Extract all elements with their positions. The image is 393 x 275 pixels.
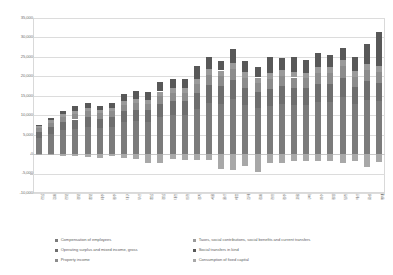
bar-stack: [349, 18, 361, 193]
bar-segment: [279, 76, 285, 87]
bar-segment: [327, 55, 333, 67]
bar-segment: [48, 123, 54, 127]
bar-segment-negative: [327, 154, 333, 161]
bar-segment: [255, 92, 261, 108]
bar-stack: [251, 18, 263, 193]
legend-swatch-icon: [193, 239, 196, 242]
legend-item[interactable]: Operating surplus and mixed income, gros…: [55, 248, 138, 253]
y-axis-tick-label: 35,000: [3, 16, 33, 20]
bar-segment: [206, 57, 212, 69]
bar-segment: [279, 70, 285, 76]
x-axis-tick-label: 강원: [53, 194, 57, 228]
bar-segment: [145, 92, 151, 100]
bar-segment-negative: [291, 154, 297, 161]
x-axis-tick-label: 화성: [368, 194, 372, 228]
bar-stack: [361, 18, 373, 193]
bar-segment: [194, 84, 200, 93]
bar-segment-negative: [170, 154, 176, 159]
bar-segment: [315, 84, 321, 102]
legend-swatch-icon: [193, 259, 196, 262]
bar-stack: [179, 18, 191, 193]
bar-segment: [340, 66, 346, 78]
bar-segment: [60, 111, 66, 115]
bar-segment: [279, 58, 285, 70]
bar-segment: [291, 57, 297, 72]
bar-segment: [303, 78, 309, 88]
bar-segment: [182, 88, 188, 93]
bar-segment-negative: [242, 154, 248, 166]
bar-stack: [373, 18, 385, 193]
legend-label: Taxes, social contributions, social bene…: [199, 238, 311, 243]
legend-item[interactable]: Taxes, social contributions, social bene…: [193, 238, 310, 243]
bar-segment: [218, 71, 224, 77]
legend-item[interactable]: Consumption of fixed capital: [193, 258, 249, 263]
bar-segment: [206, 103, 212, 154]
chart-legend: Compensation of employeesOperating surpl…: [33, 236, 385, 272]
legend-item[interactable]: Property income: [55, 258, 90, 263]
bar-segment: [182, 115, 188, 154]
bar-segment: [72, 106, 78, 111]
legend-swatch-icon: [55, 259, 58, 262]
bar-segment-negative: [133, 154, 139, 159]
bar-segment-negative: [364, 154, 370, 167]
bar-segment: [109, 108, 115, 111]
bar-segment: [60, 117, 66, 122]
x-axis-tick-label: 제주: [101, 194, 105, 228]
bar-segment: [218, 76, 224, 86]
bar-stack: [142, 18, 154, 193]
legend-item[interactable]: Social transfers in kind: [193, 248, 239, 253]
bar-segment: [267, 73, 273, 79]
bar-segment: [376, 101, 382, 154]
bar-segment: [267, 106, 273, 154]
bar-segment-negative: [85, 154, 91, 157]
legend-label: Social transfers in kind: [199, 248, 239, 253]
bar-segment: [376, 83, 382, 101]
bar-stack: [69, 18, 81, 193]
bar-segment: [242, 61, 248, 72]
bar-stack: [94, 18, 106, 193]
x-axis-tick-label: 포항: [296, 194, 300, 228]
bar-segment: [340, 48, 346, 60]
bar-segment: [145, 104, 151, 111]
bar-segment: [48, 134, 54, 154]
bar-segment: [109, 127, 115, 154]
bar-segment: [255, 108, 261, 154]
bar-segment: [327, 102, 333, 155]
bar-segment: [157, 104, 163, 117]
legend-swatch-icon: [55, 249, 58, 252]
x-axis-tick-label: 창원: [259, 194, 263, 228]
bar-segment-negative: [182, 154, 188, 160]
bar-segment: [340, 97, 346, 154]
bar-segment: [327, 67, 333, 73]
bar-segment: [85, 111, 91, 117]
bar-segment-negative: [376, 154, 382, 162]
y-axis-tick-label: 25,000: [3, 55, 33, 59]
bar-segment: [376, 72, 382, 83]
x-axis-tick-label: 대전: [174, 194, 178, 228]
bar-segment: [97, 106, 103, 111]
bar-segment-negative: [194, 154, 200, 159]
bar-segment: [170, 101, 176, 115]
x-axis-tick-label: 전북: [65, 194, 69, 228]
bar-segment: [72, 111, 78, 114]
bar-segment: [72, 129, 78, 154]
bar-segment-negative: [340, 154, 346, 163]
bar-segment: [327, 73, 333, 84]
x-axis-tick-label: 전남: [41, 194, 45, 228]
legend-item[interactable]: Compensation of employees: [55, 238, 111, 243]
bar-segment: [182, 79, 188, 88]
bar-segment: [157, 82, 163, 91]
legend-swatch-icon: [193, 249, 196, 252]
bar-segment: [218, 104, 224, 155]
bar-stack: [167, 18, 179, 193]
bar-segment: [121, 105, 127, 112]
x-axis-tick-label: 경남: [162, 194, 166, 228]
bar-segment: [267, 57, 273, 73]
bar-segment: [267, 79, 273, 89]
bar-stack: [288, 18, 300, 193]
bar-stack: [191, 18, 203, 193]
bar-segment-negative: [267, 154, 273, 163]
bar-segment: [218, 86, 224, 103]
x-axis-tick-label: 청주: [283, 194, 287, 228]
bar-segment: [72, 114, 78, 119]
